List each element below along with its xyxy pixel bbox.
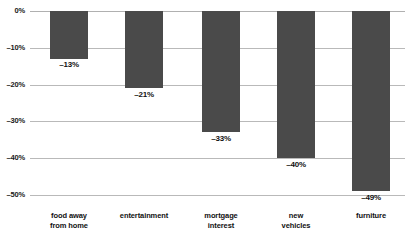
x-axis-label-line-1: new (253, 211, 339, 221)
x-axis-label-entertainment: entertainment (101, 211, 187, 221)
bar-chart: 0% –10% –20% –30% –40% –50% –13% –21% –3… (0, 0, 411, 241)
gridline-40 (30, 158, 405, 159)
bar-value-new-vehicles: –40% (271, 160, 321, 169)
x-axis-label-line-1: furniture (328, 211, 411, 221)
x-axis-label-food-away-from-home: food away from home (26, 211, 112, 230)
x-axis-label-line-2: vehicles (253, 221, 339, 231)
x-axis-label-line-2: interest (178, 221, 264, 231)
x-axis-label-new-vehicles: new vehicles (253, 211, 339, 230)
y-axis-tick-20: –20% (0, 81, 25, 89)
bar-entertainment (125, 11, 163, 88)
x-axis-label-furniture: furniture (328, 211, 411, 221)
bar-value-food-away-from-home: –13% (44, 60, 94, 69)
y-axis-tick-40: –40% (0, 154, 25, 162)
bar-new-vehicles (277, 11, 315, 158)
x-axis-label-mortgage-interest: mortgage interest (178, 211, 264, 230)
y-axis-tick-10: –10% (0, 44, 25, 52)
x-axis-label-line-2: from home (26, 221, 112, 231)
y-axis-tick-0: 0% (0, 7, 25, 15)
x-axis-label-line-1: mortgage (178, 211, 264, 221)
bar-value-mortgage-interest: –33% (196, 134, 246, 143)
bar-value-entertainment: –21% (119, 90, 169, 99)
bar-value-furniture: –49% (346, 193, 396, 202)
x-axis-label-line-1: food away (26, 211, 112, 221)
x-axis-label-line-1: entertainment (101, 211, 187, 221)
bar-furniture (352, 11, 390, 191)
bar-mortgage-interest (202, 11, 240, 132)
bar-food-away-from-home (50, 11, 88, 59)
y-axis-tick-30: –30% (0, 117, 25, 125)
y-axis-tick-50: –50% (0, 191, 25, 199)
